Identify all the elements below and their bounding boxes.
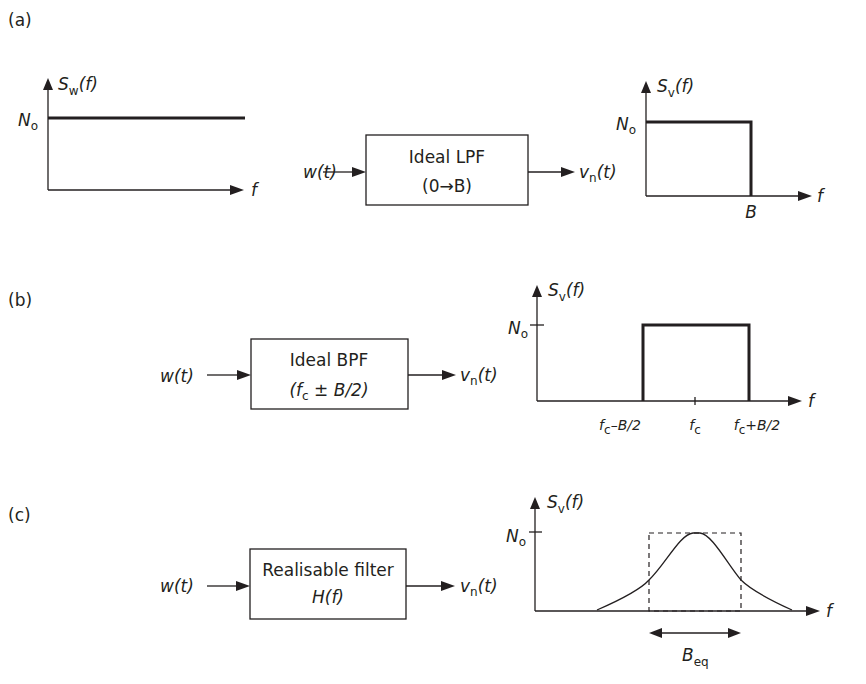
y-axis-label: Sw(f) [58,74,98,98]
x-tick-label-center: fc [689,417,701,437]
level-label: No [506,526,526,549]
input-signal-label: w(t) [160,366,194,386]
filter-transfer-function: H(f) [312,587,344,607]
x-axis-arrow-icon [230,185,244,195]
level-label: No [18,110,38,133]
output-spectrum-plot-b: Sv(f) No f fc–B/2 fc fc+B/2 [508,280,817,437]
y-axis-arrow-icon [532,285,542,297]
output-signal-label: vn(t) [579,162,617,185]
bandwidth-arrow-right-icon [728,628,741,638]
level-label: No [616,114,636,137]
level-label: No [508,318,528,341]
y-axis-arrow-icon [43,78,53,90]
panel-label-a: (a) [8,10,32,30]
panel-label-b: (b) [8,290,32,310]
x-axis-arrow-icon [798,191,812,201]
bandwidth-label: Beq [682,645,709,669]
input-arrow-icon [237,370,251,380]
input-signal-label: w(t) [160,576,194,596]
y-axis-arrow-icon [641,81,651,93]
filter-name: Ideal LPF [409,147,485,167]
filter-range: (fc ± B/2) [289,380,368,403]
output-spectrum-plot-c: Sv(f) No f Beq [506,492,835,669]
x-axis-arrow-icon [788,396,802,406]
x-axis-label: f [817,186,826,206]
input-arrow-icon [236,581,250,591]
output-arrow-icon [442,370,456,380]
output-spectrum-plot-a: Sv(f) No f B [616,76,826,222]
y-axis-label: Sv(f) [547,492,584,516]
y-axis-label: Sv(f) [657,76,694,100]
y-axis-arrow-icon [530,497,540,509]
lpf-psd-rect [646,122,751,196]
x-tick-label-lower: fc–B/2 [599,417,641,437]
x-axis-label: f [826,601,835,621]
output-arrow-icon [561,167,575,177]
equivalent-bandwidth-rect [649,533,741,611]
filter-range: (0→B) [422,176,472,196]
bandwidth-arrow-left-icon [649,628,662,638]
x-tick-label-upper: fc+B/2 [734,417,781,437]
x-axis-label: f [251,180,260,200]
input-spectrum-plot-a: Sw(f) No f [18,74,260,200]
panel-label-c: (c) [8,505,31,525]
panel-c: (c) w(t) Realisable filter H(f) vn(t) Sv… [8,492,835,669]
x-tick-label-b: B [745,202,757,222]
x-axis-label: f [808,391,817,411]
filter-name: Ideal BPF [290,350,369,370]
output-signal-label: vn(t) [460,576,498,599]
bpf-psd-rect [643,325,749,401]
noise-filtering-diagram: (a) Sw(f) No f w(t) Ideal LPF (0→B) vn(t… [0,0,866,684]
output-signal-label: vn(t) [460,365,498,388]
x-axis-arrow-icon [806,606,820,616]
output-arrow-icon [441,581,455,591]
panel-a: (a) Sw(f) No f w(t) Ideal LPF (0→B) vn(t… [8,10,826,222]
input-arrow-icon [352,167,366,177]
panel-b: (b) w(t) Ideal BPF (fc ± B/2) vn(t) Sv(f… [8,280,817,437]
y-axis-label: Sv(f) [548,280,585,304]
realisable-psd-curve [597,533,792,610]
filter-name: Realisable filter [262,560,394,580]
